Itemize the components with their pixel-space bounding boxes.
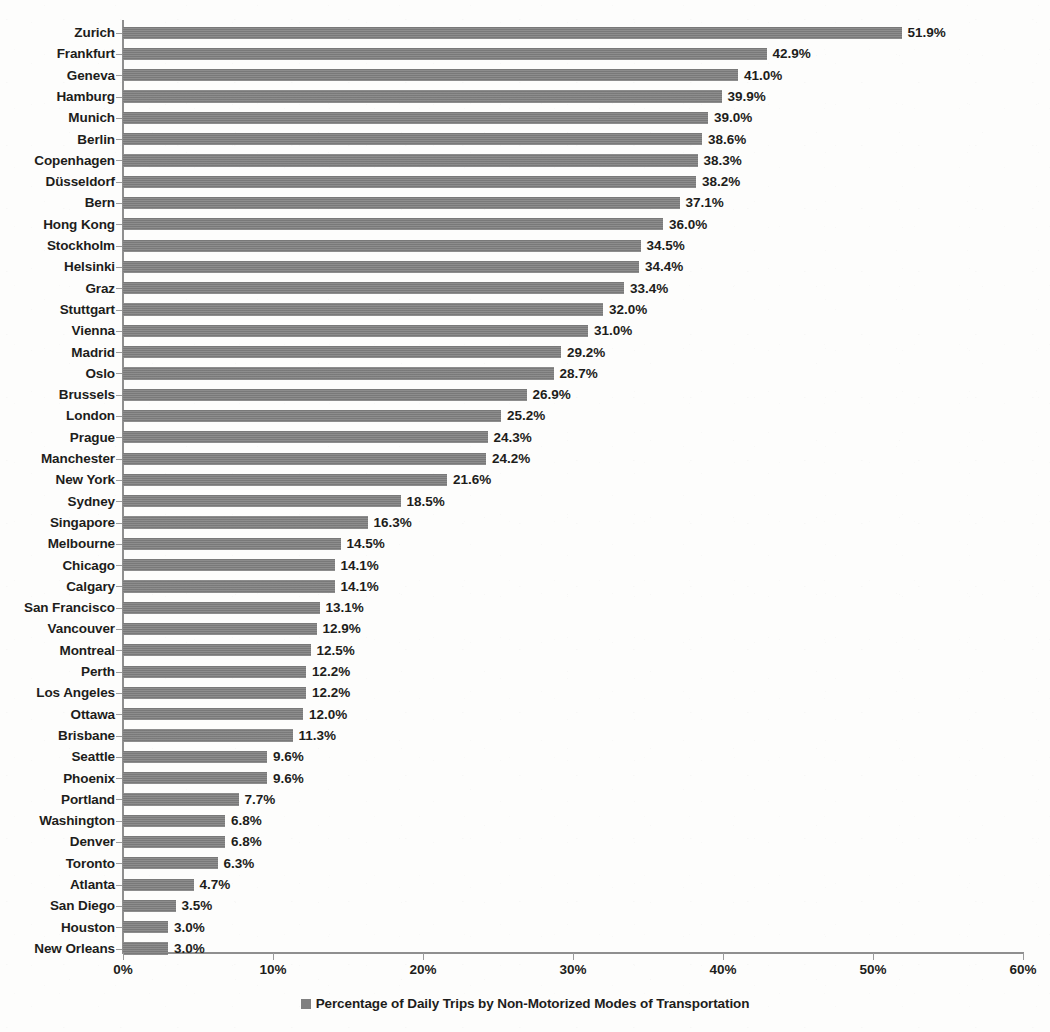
bar-value-label: 51.9%: [908, 22, 946, 43]
y-axis-tick: [116, 437, 122, 438]
y-axis-tick: [116, 139, 122, 140]
y-axis-tick: [116, 650, 122, 651]
bar-value-label: 11.3%: [299, 725, 337, 746]
category-label: Denver: [0, 831, 115, 852]
bar: [123, 623, 317, 635]
bar-row: Oslo28.7%: [0, 363, 1050, 384]
y-axis-tick: [116, 863, 122, 864]
bar-value-label: 31.0%: [594, 320, 632, 341]
bar: [123, 879, 194, 891]
bar: [123, 303, 603, 315]
bar: [123, 495, 401, 507]
y-axis-tick: [116, 885, 122, 886]
y-axis-tick: [116, 672, 122, 673]
bar-value-label: 7.7%: [245, 789, 276, 810]
y-axis-tick: [116, 75, 122, 76]
y-axis-tick: [116, 203, 122, 204]
bar-value-label: 38.3%: [704, 150, 742, 171]
bar: [123, 921, 168, 933]
x-axis-tick-label: 50%: [838, 962, 908, 977]
bar-value-label: 38.6%: [708, 129, 746, 150]
y-axis-tick: [116, 267, 122, 268]
x-axis-tick: [723, 953, 724, 960]
category-label: Vienna: [0, 320, 115, 341]
bar-value-label: 16.3%: [374, 512, 412, 533]
category-label: Stuttgart: [0, 299, 115, 320]
category-label: Berlin: [0, 129, 115, 150]
bar-row: New York21.6%: [0, 469, 1050, 490]
bar-value-label: 9.6%: [273, 746, 304, 767]
bar-value-label: 24.3%: [494, 427, 532, 448]
bar-value-label: 38.2%: [702, 171, 740, 192]
bar-row: San Francisco13.1%: [0, 597, 1050, 618]
bar-row: London25.2%: [0, 405, 1050, 426]
bar-value-label: 25.2%: [507, 405, 545, 426]
x-axis-tick-label: 20%: [388, 962, 458, 977]
category-label: Singapore: [0, 512, 115, 533]
category-label: Brisbane: [0, 725, 115, 746]
y-axis-tick: [116, 544, 122, 545]
x-axis-tick-label: 10%: [238, 962, 308, 977]
bar: [123, 644, 311, 656]
bar: [123, 154, 698, 166]
bar: [123, 836, 225, 848]
bar: [123, 900, 176, 912]
bar-value-label: 24.2%: [492, 448, 530, 469]
y-axis-tick: [116, 246, 122, 247]
bar-row: Manchester24.2%: [0, 448, 1050, 469]
y-axis-tick: [116, 799, 122, 800]
bar-value-label: 12.5%: [317, 640, 355, 661]
category-label: Seattle: [0, 746, 115, 767]
y-axis-tick: [116, 565, 122, 566]
y-axis-tick: [116, 778, 122, 779]
bar: [123, 218, 663, 230]
bar-value-label: 29.2%: [567, 342, 605, 363]
bar-row: Houston3.0%: [0, 917, 1050, 938]
bar: [123, 48, 767, 60]
category-label: Brussels: [0, 384, 115, 405]
category-label: Zurich: [0, 22, 115, 43]
chart-legend: Percentage of Daily Trips by Non-Motoriz…: [0, 996, 1050, 1011]
y-axis-tick: [116, 416, 122, 417]
y-axis-tick: [116, 821, 122, 822]
bar: [123, 751, 267, 763]
category-label: Montreal: [0, 640, 115, 661]
category-label: Hamburg: [0, 86, 115, 107]
bar-row: Los Angeles12.2%: [0, 682, 1050, 703]
bar-row: Frankfurt42.9%: [0, 43, 1050, 64]
bar: [123, 431, 488, 443]
bar-row: Munich39.0%: [0, 107, 1050, 128]
y-axis-tick: [116, 331, 122, 332]
bar: [123, 602, 320, 614]
bar: [123, 687, 306, 699]
horizontal-bar-chart: Zurich51.9%Frankfurt42.9%Geneva41.0%Hamb…: [0, 0, 1050, 1032]
bar: [123, 708, 303, 720]
x-axis-tick: [423, 953, 424, 960]
y-axis-tick: [116, 906, 122, 907]
bar-row: Calgary14.1%: [0, 576, 1050, 597]
bar: [123, 666, 306, 678]
bar: [123, 815, 225, 827]
bar-row: Vancouver12.9%: [0, 618, 1050, 639]
category-label: Toronto: [0, 853, 115, 874]
y-axis-tick: [116, 927, 122, 928]
bar-row: Portland7.7%: [0, 789, 1050, 810]
category-label: Chicago: [0, 555, 115, 576]
x-axis-tick: [573, 953, 574, 960]
bar: [123, 27, 902, 39]
bar-row: Brisbane11.3%: [0, 725, 1050, 746]
y-axis-tick: [116, 949, 122, 950]
category-label: New Orleans: [0, 938, 115, 959]
category-label: Bern: [0, 192, 115, 213]
bar-value-label: 3.0%: [174, 917, 205, 938]
bar-row: Düsseldorf38.2%: [0, 171, 1050, 192]
x-axis-tick-label: 30%: [538, 962, 608, 977]
bar-value-label: 14.1%: [341, 576, 379, 597]
category-label: Perth: [0, 661, 115, 682]
category-label: Frankfurt: [0, 43, 115, 64]
category-label: Sydney: [0, 491, 115, 512]
category-label: Helsinki: [0, 256, 115, 277]
bar-value-label: 14.1%: [341, 555, 379, 576]
bar-row: Ottawa12.0%: [0, 704, 1050, 725]
y-axis-tick: [116, 182, 122, 183]
